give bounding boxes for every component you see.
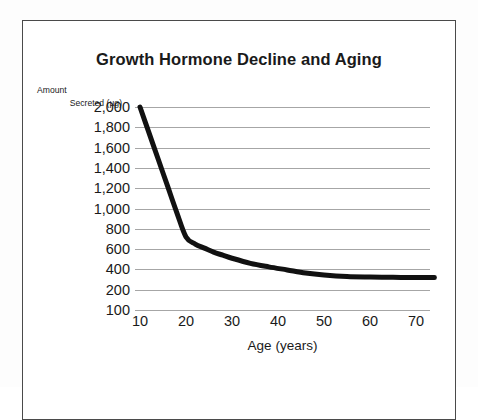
x-axis-title: Age (years) [135,338,430,353]
series-line-chart [135,107,430,310]
y-tick-label: 1,600 [94,140,130,155]
y-tick-label: 1,000 [94,201,130,216]
y-tick-label: 400 [106,262,130,277]
x-tick-label: 60 [362,314,378,329]
y-tick-label: 1,200 [94,181,130,196]
x-axis-tick-labels: 10203040506070 [135,314,430,334]
y-tick-label: 800 [106,222,130,237]
gridline [135,310,430,311]
y-tick-label: 2,000 [94,100,130,115]
chart-title: Growth Hormone Decline and Aging [22,50,456,69]
plot-area [135,107,430,310]
x-tick-label: 20 [178,314,194,329]
y-tick-label: 100 [106,303,130,318]
x-tick-label: 10 [132,314,148,329]
y-axis-tick-labels: 2,0001,8001,6001,4001,2001,0008006004002… [58,107,132,310]
growth-hormone-curve [140,107,434,278]
x-tick-label: 40 [270,314,286,329]
y-tick-label: 1,400 [94,161,130,176]
y-axis-title-line-1: Amount [30,84,122,97]
x-tick-label: 70 [408,314,424,329]
y-tick-label: 1,800 [94,120,130,135]
x-tick-label: 30 [224,314,240,329]
y-tick-label: 200 [106,282,130,297]
x-tick-label: 50 [316,314,332,329]
y-tick-label: 600 [106,242,130,257]
